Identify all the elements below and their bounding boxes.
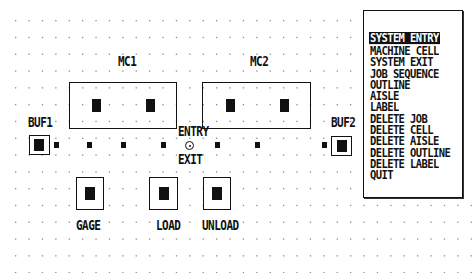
- aisle-point[interactable]: [121, 142, 126, 148]
- aisle-point[interactable]: [322, 142, 327, 148]
- unload-station[interactable]: [203, 177, 231, 210]
- menu-item-quit[interactable]: QUIT: [369, 169, 451, 181]
- buf1-label: BUF1: [28, 116, 53, 130]
- exit-label: EXIT: [178, 153, 203, 167]
- entry-exit-node-icon[interactable]: [185, 141, 194, 150]
- aisle-point[interactable]: [161, 142, 166, 148]
- command-menu: SYSTEM ENTRY MACHINE CELL SYSTEM EXIT JO…: [363, 10, 463, 198]
- mc1-machine-2[interactable]: [146, 99, 155, 112]
- gage-block: [85, 187, 95, 200]
- unload-block: [212, 187, 222, 200]
- buf1-station[interactable]: [29, 135, 50, 155]
- aisle-point[interactable]: [255, 142, 260, 148]
- mc2-machine-1[interactable]: [226, 99, 235, 112]
- menu-list: SYSTEM ENTRY MACHINE CELL SYSTEM EXIT JO…: [369, 26, 451, 181]
- mc2-outline[interactable]: [202, 82, 311, 129]
- buf2-station[interactable]: [331, 136, 352, 156]
- aisle-point[interactable]: [54, 142, 59, 148]
- aisle-point[interactable]: [215, 142, 220, 148]
- load-station[interactable]: [149, 177, 178, 210]
- unload-label: UNLOAD: [202, 219, 239, 233]
- gage-label: GAGE: [76, 219, 101, 233]
- mc1-machine-1[interactable]: [92, 99, 101, 112]
- mc2-machine-2[interactable]: [280, 99, 289, 112]
- gage-station[interactable]: [76, 177, 104, 210]
- menu-item-system-entry[interactable]: SYSTEM ENTRY: [369, 32, 440, 44]
- mc1-label: MC1: [118, 55, 136, 69]
- buf2-block: [337, 140, 347, 152]
- load-block: [159, 187, 169, 200]
- buf1-block: [34, 139, 44, 151]
- mc2-label: MC2: [250, 55, 268, 69]
- mc1-outline[interactable]: [69, 82, 177, 129]
- aisle-point[interactable]: [87, 142, 92, 148]
- entry-label: ENTRY: [178, 125, 209, 139]
- load-label: LOAD: [156, 219, 181, 233]
- buf2-label: BUF2: [331, 116, 356, 130]
